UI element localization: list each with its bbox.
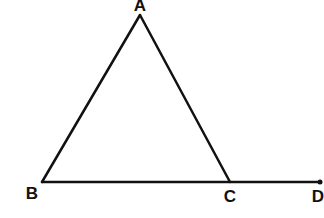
triangle-diagram bbox=[0, 0, 324, 218]
point-d-dot bbox=[318, 180, 323, 185]
segment-ab bbox=[42, 15, 140, 182]
label-a: A bbox=[134, 0, 146, 14]
label-c: C bbox=[224, 188, 236, 205]
label-b: B bbox=[26, 185, 38, 202]
segment-ac bbox=[140, 15, 230, 182]
label-d: D bbox=[312, 188, 324, 205]
